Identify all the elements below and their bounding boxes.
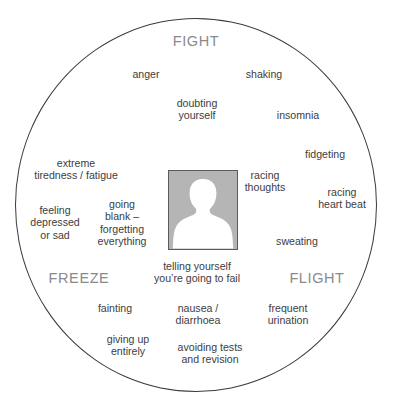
symptom-fidgeting: fidgeting	[305, 148, 345, 160]
symptom-frequent-urination: frequent urination	[268, 302, 309, 327]
symptom-racing-heart-beat: racing heart beat	[318, 186, 366, 211]
symptom-shaking: shaking	[246, 68, 283, 80]
category-label-freeze: FREEZE	[49, 270, 110, 286]
person-silhouette-avatar	[168, 170, 238, 250]
stress-response-diagram: FIGHT FLIGHT FREEZE anger shaking doubti…	[0, 0, 393, 411]
symptom-racing-thoughts: racing thoughts	[245, 169, 286, 194]
symptom-insomnia: insomnia	[277, 109, 319, 121]
symptom-nausea-diarrhoea: nausea / diarrhoea	[176, 302, 221, 327]
symptom-telling-yourself-fail: telling yourself you’re going to fail	[154, 260, 240, 285]
person-silhouette-icon	[169, 171, 237, 249]
symptom-giving-up-entirely: giving up entirely	[107, 333, 149, 358]
category-label-flight: FLIGHT	[289, 270, 344, 286]
symptom-feeling-depressed: feeling depressed or sad	[30, 204, 79, 241]
symptom-going-blank: going blank – forgetting everything	[98, 198, 147, 248]
symptom-doubting-yourself: doubting yourself	[177, 97, 218, 122]
symptom-fainting: fainting	[98, 302, 132, 314]
symptom-extreme-tiredness: extreme tiredness / fatigue	[34, 157, 118, 182]
symptom-avoiding-tests: avoiding tests and revision	[178, 341, 243, 366]
symptom-anger: anger	[132, 68, 159, 80]
symptom-sweating: sweating	[276, 235, 318, 247]
category-label-fight: FIGHT	[173, 33, 220, 49]
